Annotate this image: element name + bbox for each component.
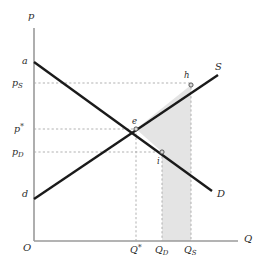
quantity-tick-supplied: QS [184, 245, 197, 255]
price-tick-demand-sub: D [18, 151, 24, 159]
price-tick-demand: pD [12, 147, 24, 157]
quantity-tick-demanded-sub: D [163, 249, 169, 257]
price-tick-supply: pS [12, 78, 23, 88]
price-tick-supply-sub: S [18, 82, 23, 90]
quantity-tick-demanded: QD [155, 245, 168, 255]
quantity-tick-demanded-base: Q [155, 244, 163, 255]
quantity-tick-equilibrium-sup: * [138, 243, 142, 252]
price-tick-equilibrium-sup: * [20, 122, 24, 131]
shaded-wedge-region [136, 85, 191, 241]
marker-point-h [189, 83, 193, 87]
demand-curve-label: D [217, 189, 225, 199]
quantity-tick-equilibrium: Q* [130, 245, 142, 255]
supply-intercept-label: d [22, 189, 28, 199]
point-label-h: h [184, 71, 189, 80]
demand-intercept-label: a [22, 56, 28, 66]
quantity-tick-supplied-sub: S [192, 249, 197, 257]
x-axis-label: Q [244, 234, 252, 244]
quantity-tick-supplied-base: Q [184, 244, 192, 255]
quantity-tick-equilibrium-base: Q [130, 244, 138, 255]
supply-curve-label: S [215, 62, 222, 72]
plot-canvas [0, 0, 266, 271]
supply-demand-figure: p Q O a d S D e h i pS p* pD Q* QD QS [0, 0, 266, 271]
point-label-e: e [132, 117, 137, 126]
y-axis-label: p [28, 11, 34, 21]
origin-label: O [23, 243, 31, 253]
marker-point-i [160, 150, 164, 154]
point-label-i: i [157, 157, 160, 166]
marker-point-e [134, 127, 138, 131]
price-tick-equilibrium: p* [14, 124, 24, 134]
